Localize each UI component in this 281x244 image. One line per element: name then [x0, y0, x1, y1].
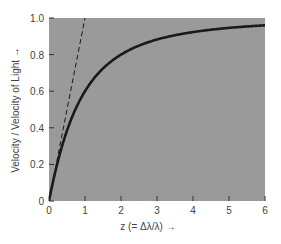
x-tick-label: 5 — [226, 205, 232, 216]
x-tick-label: 1 — [82, 205, 88, 216]
y-tick-label: 1.0 — [30, 13, 44, 24]
y-tick-label: 0 — [38, 196, 44, 207]
x-tick-label: 2 — [118, 205, 124, 216]
x-tick-label: 6 — [262, 205, 268, 216]
y-axis-label: Velocity / Velocity of Light → — [10, 47, 21, 173]
y-tick-label: 0.2 — [30, 159, 44, 170]
chart: 0123456 00.20.40.60.81.0 z (= Δλ/λ) → Ve… — [0, 0, 281, 244]
plot-area — [49, 18, 265, 201]
x-tick-label: 4 — [190, 205, 196, 216]
y-tick-label: 0.6 — [30, 86, 44, 97]
y-tick-label: 0.4 — [30, 123, 44, 134]
y-tick-label: 0.8 — [30, 50, 44, 61]
x-tick-label: 3 — [154, 205, 160, 216]
x-tick-label: 0 — [46, 205, 52, 216]
x-axis-label: z (= Δλ/λ) → — [120, 221, 175, 232]
